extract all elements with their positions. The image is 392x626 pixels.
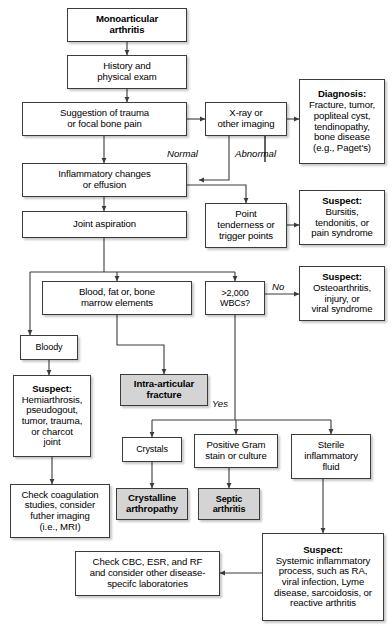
- node-inflammatory-label: Inflammatory changes or effusion: [23, 169, 186, 190]
- flowchart-canvas: Monoarticular arthritisHistory and physi…: [0, 0, 392, 626]
- edge-label-no: No: [272, 281, 284, 292]
- node-septic: Septic arthritis: [198, 488, 260, 520]
- node-checkcoag: Check coagulation studies, consider futh…: [10, 484, 110, 538]
- node-suspect_systemic-label: Systemic inflammatory process, such as R…: [263, 556, 383, 610]
- node-history: History and physical exam: [67, 55, 187, 89]
- node-wbc-label: >2,000 WBCs?: [206, 288, 264, 308]
- node-inflammatory: Inflammatory changes or effusion: [22, 163, 187, 197]
- node-suspect_osteo: Suspect:Osteoarthritis, injury, or viral…: [299, 266, 385, 321]
- node-bloodfat: Blood, fat or, bone marrow elements: [42, 281, 192, 315]
- node-crystals: Crystals: [122, 437, 182, 462]
- node-sterile-label: Sterile inflammatory fluid: [292, 440, 370, 472]
- node-bloody-label: Bloody: [21, 342, 77, 352]
- node-septic-label: Septic arthritis: [199, 494, 259, 514]
- node-suspect_bursitis-label: Bursitis, tendonitis, or pain syndrome: [300, 207, 384, 239]
- node-point: Point tenderness or trigger points: [205, 203, 287, 248]
- node-wbc: >2,000 WBCs?: [205, 281, 265, 315]
- node-intraarticular-label: Intra-articular fracture: [121, 379, 207, 400]
- node-checkcbc-label: Check CBC, ESR, and RF and consider othe…: [76, 557, 219, 589]
- node-bloody: Bloody: [20, 335, 78, 360]
- node-suggestion-label: Suggestion of trauma or focal bone pain: [23, 108, 186, 129]
- node-xray: X-ray or other imaging: [205, 102, 287, 136]
- node-intraarticular: Intra-articular fracture: [120, 374, 208, 406]
- edge-label-yes: Yes: [212, 398, 228, 409]
- node-bloodfat-label: Blood, fat or, bone marrow elements: [43, 287, 191, 308]
- node-suspect_systemic-header: Suspect:: [263, 545, 383, 556]
- node-monoarticular-label: Monoarticular arthritis: [68, 14, 186, 35]
- node-diagnosis-label: Fracture, tumor, popliteal cyst, tendino…: [300, 100, 384, 154]
- node-history-label: History and physical exam: [68, 61, 186, 82]
- node-checkcoag-label: Check coagulation studies, consider futh…: [11, 490, 109, 533]
- node-gram-label: Positive Gram stain or culture: [195, 440, 277, 461]
- edge-label-abnormal: Abnormal: [235, 148, 276, 159]
- node-sterile: Sterile inflammatory fluid: [291, 434, 371, 479]
- node-suspect_hemi: Suspect:Hemiarthrosis, pseudogout, tumor…: [13, 375, 91, 457]
- node-suspect_systemic: Suspect:Systemic inflammatory process, s…: [262, 533, 384, 621]
- node-diagnosis: Diagnosis:Fracture, tumor, popliteal cys…: [299, 79, 385, 164]
- node-checkcbc: Check CBC, ESR, and RF and consider othe…: [75, 551, 220, 596]
- node-crystals-label: Crystals: [123, 444, 181, 454]
- node-jointasp-label: Joint aspiration: [23, 219, 186, 230]
- node-crystalline-label: Crystalline arthropathy: [117, 493, 187, 514]
- node-jointasp: Joint aspiration: [22, 211, 187, 238]
- node-crystalline: Crystalline arthropathy: [116, 488, 188, 520]
- node-point-label: Point tenderness or trigger points: [206, 209, 286, 241]
- node-suspect_hemi-header: Suspect:: [14, 384, 90, 395]
- node-suspect_hemi-label: Hemiarthrosis, pseudogout, tumor, trauma…: [14, 395, 90, 449]
- node-suspect_bursitis: Suspect:Bursitis, tendonitis, or pain sy…: [299, 190, 385, 245]
- node-monoarticular: Monoarticular arthritis: [67, 8, 187, 42]
- node-suggestion: Suggestion of trauma or focal bone pain: [22, 102, 187, 136]
- node-gram: Positive Gram stain or culture: [194, 434, 278, 468]
- node-xray-label: X-ray or other imaging: [206, 108, 286, 129]
- edge-label-normal: Normal: [167, 148, 198, 159]
- node-suspect_osteo-label: Osteoarthritis, injury, or viral syndrom…: [300, 283, 384, 315]
